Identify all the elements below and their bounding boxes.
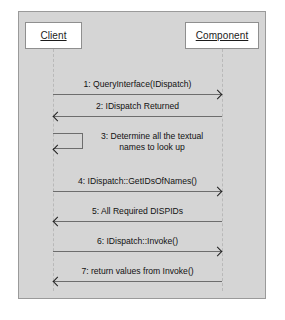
lifeline-component	[222, 49, 223, 291]
message-4-line	[53, 191, 222, 192]
message-7-line	[53, 281, 222, 282]
message-3-label-line1: 3: Determine all the textual	[88, 131, 216, 142]
message-1-label: 1: QueryInterface(IDispatch)	[53, 79, 222, 90]
message-6-line	[53, 251, 222, 252]
participant-component[interactable]: Component	[185, 22, 259, 49]
message-3-label-line2: names to look up	[88, 142, 216, 153]
participant-component-label: Component	[196, 30, 249, 41]
diagram-frame	[18, 11, 266, 299]
message-5-label: 5: All Required DISPIDs	[53, 206, 222, 217]
message-7-label: 7: return values from Invoke()	[53, 266, 222, 277]
message-4-label: 4: IDispatch::GetIDsOfNames()	[53, 176, 222, 187]
message-1-line	[53, 94, 222, 95]
sequence-diagram-canvas: Client Component 1: QueryInterface(IDisp…	[0, 0, 285, 320]
message-5-line	[53, 221, 222, 222]
message-2-line	[53, 116, 222, 117]
participant-client-label: Client	[40, 30, 66, 41]
message-2-label: 2: IDispatch Returned	[53, 101, 222, 112]
message-6-label: 6: IDispatch::Invoke()	[53, 236, 222, 247]
participant-client[interactable]: Client	[25, 22, 82, 49]
